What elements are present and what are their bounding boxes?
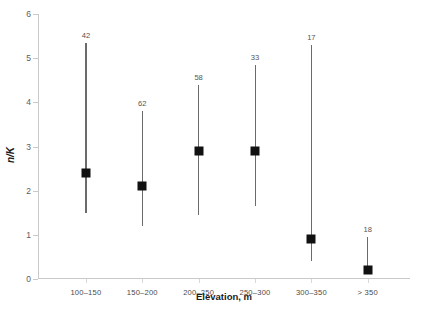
x-tick-mark	[86, 279, 87, 283]
sample-size-label: 42	[82, 31, 90, 40]
data-point-marker	[194, 147, 203, 156]
data-point-marker	[138, 182, 147, 191]
sample-size-label: 62	[138, 99, 146, 108]
y-tick-mark	[33, 102, 38, 103]
sample-size-label: 17	[307, 33, 315, 42]
x-tick-mark	[255, 279, 256, 283]
y-tick-mark	[33, 191, 38, 192]
errorbar-line	[311, 45, 312, 261]
plot-area: 0123456 100–150150–200200–250250–300300–…	[38, 14, 410, 279]
sample-size-label: 58	[194, 73, 202, 82]
y-tick-label: 0	[26, 274, 31, 284]
errorbar-line	[367, 237, 368, 266]
y-tick-label: 1	[26, 230, 31, 240]
y-tick-label: 4	[26, 97, 31, 107]
x-tick-mark	[368, 279, 369, 283]
errorbar-line	[255, 65, 256, 206]
x-axis-title: Elevation, m	[38, 291, 410, 302]
data-point-marker	[81, 169, 90, 178]
y-tick-mark	[33, 147, 38, 148]
y-tick-label: 6	[26, 9, 31, 19]
y-tick-mark	[33, 58, 38, 59]
y-axis-line	[38, 14, 39, 279]
y-tick-mark	[33, 279, 38, 280]
x-tick-mark	[311, 279, 312, 283]
x-tick-mark	[199, 279, 200, 283]
y-tick-label: 2	[26, 186, 31, 196]
errorbar-line	[142, 111, 143, 226]
data-point-marker	[363, 266, 372, 275]
x-axis-line	[38, 278, 410, 279]
x-tick-mark	[142, 279, 143, 283]
data-point-marker	[251, 147, 260, 156]
y-axis-title: n/K	[5, 146, 16, 162]
y-tick-label: 3	[26, 142, 31, 152]
sample-size-label: 18	[363, 225, 371, 234]
y-tick-mark	[33, 235, 38, 236]
sample-size-label: 33	[251, 53, 259, 62]
y-tick-label: 5	[26, 53, 31, 63]
data-point-marker	[307, 235, 316, 244]
y-tick-mark	[33, 14, 38, 15]
errorbar-line	[85, 43, 86, 213]
error-bar-chart: n/K 0123456 100–150150–200200–250250–300…	[0, 0, 426, 309]
